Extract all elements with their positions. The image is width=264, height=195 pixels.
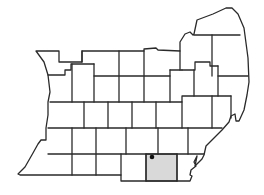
- county-line: [48, 64, 94, 75]
- county-line: [50, 96, 231, 102]
- location-marker: [150, 155, 155, 160]
- locator-map: [0, 0, 264, 195]
- state-outline: [18, 8, 249, 181]
